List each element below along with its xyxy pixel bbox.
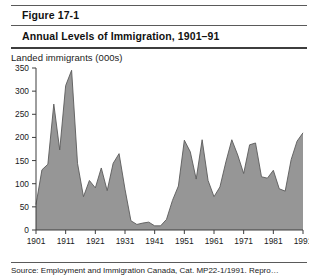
- area-chart-svg: 050100150200250300350 190119111921193119…: [0, 64, 309, 258]
- y-tick-label: 100: [15, 179, 29, 189]
- y-tick-label: 50: [20, 202, 30, 212]
- x-tick-label: 1961: [205, 236, 224, 246]
- y-tick-label: 300: [15, 86, 29, 96]
- x-tick-label: 1911: [57, 236, 75, 246]
- x-axis-ticks: 1901191119211931194119511961197119811991: [27, 230, 309, 246]
- x-tick-label: 1971: [234, 236, 253, 246]
- y-tick-label: 250: [15, 109, 29, 119]
- rule-title-underline: [11, 47, 307, 49]
- x-tick-label: 1931: [116, 236, 135, 246]
- x-tick-label: 1941: [145, 236, 164, 246]
- rule-middle-divider: [11, 25, 307, 26]
- figure-number-label: Figure 17-1: [22, 9, 79, 21]
- y-axis-ticks: 050100150200250300350: [15, 64, 36, 235]
- area-chart: 050100150200250300350 190119111921193119…: [0, 64, 309, 258]
- y-axis-label: Landed immigrants (000s): [11, 52, 123, 63]
- x-tick-label: 1981: [264, 236, 283, 246]
- source-note: Source: Employment and Immigration Canad…: [11, 266, 307, 276]
- x-tick-label: 1921: [86, 236, 105, 246]
- rule-source-divider: [11, 262, 307, 263]
- rule-top-divider: [11, 5, 307, 6]
- y-tick-label: 0: [24, 225, 29, 235]
- x-tick-label: 1901: [27, 236, 46, 246]
- x-tick-label: 1991: [294, 236, 309, 246]
- area-series-fill: [36, 70, 303, 230]
- y-tick-label: 150: [15, 156, 29, 166]
- y-tick-label: 200: [15, 132, 29, 142]
- y-tick-label: 350: [15, 64, 29, 73]
- figure-container: Figure 17-1 Annual Levels of Immigration…: [0, 0, 309, 276]
- figure-title: Annual Levels of Immigration, 1901–91: [22, 30, 219, 42]
- x-tick-label: 1951: [175, 236, 194, 246]
